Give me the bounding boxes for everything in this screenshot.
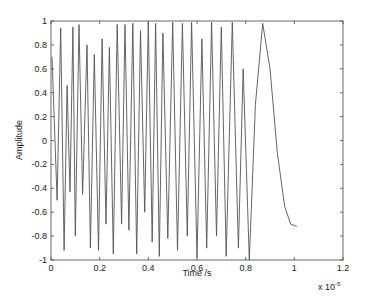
y-tick-label: 0.2 — [34, 112, 47, 122]
y-tick-label: -0.6 — [31, 207, 47, 217]
x-tick-label: 0.4 — [142, 263, 155, 273]
x-axis-label: Time /s — [182, 268, 212, 278]
x-multiplier-label: x 10-5 — [318, 281, 341, 292]
y-tick-label: -1 — [39, 255, 47, 265]
y-tick-label: 1 — [42, 16, 47, 26]
x-tick-label: 0.2 — [93, 263, 106, 273]
x-tick-label: 1.2 — [337, 263, 350, 273]
x-tick-label: 0.8 — [239, 263, 252, 273]
x-tick-label: 1 — [292, 263, 297, 273]
chart-figure: 00.20.40.60.811.2 -1-0.8-0.6-0.4-0.200.2… — [0, 0, 368, 306]
plot-area — [51, 21, 343, 260]
y-axis-label: Amplitude — [14, 120, 24, 160]
x-tick-label: 0 — [48, 263, 53, 273]
y-tick-label: 0 — [42, 136, 47, 146]
y-tick-label: 0.6 — [34, 64, 47, 74]
y-tick-label: -0.2 — [31, 159, 47, 169]
y-tick-label: 0.4 — [34, 88, 47, 98]
y-tick-label: 0.8 — [34, 40, 47, 50]
y-tick-label: -0.4 — [31, 183, 47, 193]
y-tick-label: -0.8 — [31, 231, 47, 241]
